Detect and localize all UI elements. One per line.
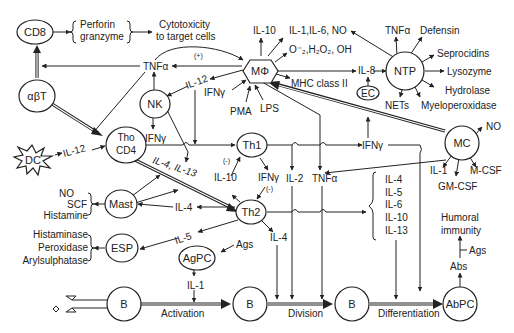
svg-text:NTP: NTP bbox=[394, 65, 416, 77]
svg-text:αβT: αβT bbox=[27, 90, 47, 102]
svg-text:IL-8: IL-8 bbox=[358, 65, 376, 76]
svg-text:SCF: SCF bbox=[67, 199, 87, 210]
node-ec: EC bbox=[357, 86, 379, 100]
svg-text:to target cells: to target cells bbox=[156, 31, 215, 42]
svg-text:CD8: CD8 bbox=[24, 26, 46, 38]
svg-text:TNFα: TNFα bbox=[312, 173, 337, 184]
svg-text:Lysozyme: Lysozyme bbox=[447, 66, 492, 77]
node-dc: DC bbox=[14, 145, 52, 175]
svg-text:B: B bbox=[120, 298, 127, 310]
svg-text:Th1: Th1 bbox=[243, 139, 262, 151]
svg-text:IL-5: IL-5 bbox=[173, 230, 193, 246]
svg-text:GM-CSF: GM-CSF bbox=[438, 181, 477, 192]
svg-text:IFNγ: IFNγ bbox=[204, 87, 225, 98]
svg-text:Seprocidins: Seprocidins bbox=[437, 48, 489, 59]
svg-text:ESP: ESP bbox=[111, 242, 133, 254]
node-cd8: CD8 bbox=[17, 20, 53, 44]
node-esp: ESP bbox=[106, 234, 138, 262]
svg-text:Defensin: Defensin bbox=[420, 25, 459, 36]
svg-text:B: B bbox=[348, 298, 355, 310]
svg-text:LPS: LPS bbox=[260, 103, 279, 114]
svg-text:Mast: Mast bbox=[109, 198, 133, 210]
svg-text:B: B bbox=[246, 298, 253, 310]
svg-text:EC: EC bbox=[361, 88, 375, 99]
svg-text:Humoral: Humoral bbox=[441, 212, 479, 223]
svg-text:IL-4: IL-4 bbox=[175, 202, 193, 213]
svg-text:AgPC: AgPC bbox=[183, 252, 212, 264]
node-ntp: NTP bbox=[386, 52, 424, 90]
svg-text:IL-6: IL-6 bbox=[385, 199, 403, 210]
svg-text:immunity: immunity bbox=[441, 225, 481, 236]
node-nk: NK bbox=[140, 90, 170, 118]
svg-text:Division: Division bbox=[288, 308, 323, 319]
svg-text:IL-4: IL-4 bbox=[385, 174, 403, 185]
svg-text:M-CSF: M-CSF bbox=[470, 165, 502, 176]
svg-text:CD4: CD4 bbox=[116, 145, 136, 156]
svg-text:NO: NO bbox=[486, 121, 501, 132]
node-mast: Mast bbox=[105, 190, 137, 218]
svg-text:Myeloperoxidase: Myeloperoxidase bbox=[421, 100, 497, 111]
svg-text:IL-10: IL-10 bbox=[214, 172, 237, 183]
svg-text:AbPC: AbPC bbox=[446, 298, 475, 310]
svg-text:IFNγ: IFNγ bbox=[362, 140, 383, 151]
node-macrophage: MΦ bbox=[243, 60, 278, 83]
node-mc: MC bbox=[445, 126, 479, 160]
antigen-diamond-icon bbox=[53, 306, 59, 312]
node-th1: Th1 bbox=[237, 133, 267, 157]
node-agpc: AgPC bbox=[179, 246, 215, 270]
svg-text:IL-4, IL-13: IL-4, IL-13 bbox=[151, 154, 198, 179]
svg-text:Arylsulphatase: Arylsulphatase bbox=[22, 255, 88, 266]
svg-text:DC: DC bbox=[25, 154, 41, 166]
svg-text:IFNγ: IFNγ bbox=[258, 172, 279, 183]
svg-text:IFNγ: IFNγ bbox=[145, 133, 166, 144]
bcr-receptor-icon bbox=[66, 296, 107, 312]
svg-text:Histamine: Histamine bbox=[44, 210, 89, 221]
svg-text:Cytotoxicity: Cytotoxicity bbox=[159, 19, 210, 30]
svg-text:Abs: Abs bbox=[450, 261, 467, 272]
node-abt: αβT bbox=[19, 80, 55, 112]
svg-text:(+): (+) bbox=[194, 52, 203, 60]
svg-text:(-): (-) bbox=[266, 185, 273, 193]
svg-text:Hydrolase: Hydrolase bbox=[445, 85, 490, 96]
svg-text:Ags: Ags bbox=[236, 239, 253, 250]
svg-text:TNFα: TNFα bbox=[143, 61, 168, 72]
svg-text:(-): (-) bbox=[223, 157, 230, 165]
svg-text:Ags: Ags bbox=[469, 245, 486, 256]
node-th2: Th2 bbox=[236, 200, 266, 224]
svg-text:IL-10: IL-10 bbox=[253, 25, 276, 36]
svg-text:MΦ: MΦ bbox=[251, 65, 269, 77]
svg-text:IL-2: IL-2 bbox=[286, 173, 304, 184]
svg-text:Histaminase: Histaminase bbox=[33, 229, 88, 240]
svg-text:MC: MC bbox=[453, 137, 470, 149]
svg-text:IL-4: IL-4 bbox=[270, 232, 288, 243]
svg-text:IL-10: IL-10 bbox=[385, 212, 408, 223]
svg-text:IL-5: IL-5 bbox=[385, 187, 403, 198]
svg-text:Peroxidase: Peroxidase bbox=[38, 242, 88, 253]
node-b-naive: B bbox=[107, 287, 141, 321]
svg-text:Th2: Th2 bbox=[242, 206, 261, 218]
svg-text:O⁻₂,H₂O₂, OH: O⁻₂,H₂O₂, OH bbox=[289, 44, 352, 55]
svg-text:TNFα: TNFα bbox=[385, 25, 410, 36]
svg-text:IL-1: IL-1 bbox=[430, 165, 448, 176]
svg-text:Tho: Tho bbox=[117, 132, 135, 143]
immune-network-diagram: CD8 αβT DC Tho CD4 NK MΦ NTP EC Th1 Th2 … bbox=[0, 0, 514, 333]
node-b-activated: B bbox=[233, 287, 267, 321]
svg-text:IL-1: IL-1 bbox=[187, 280, 205, 291]
svg-text:granzyme: granzyme bbox=[80, 31, 124, 42]
svg-text:PMA: PMA bbox=[230, 106, 252, 117]
node-abpc: AbPC bbox=[443, 287, 477, 321]
node-tho-cd4: Tho CD4 bbox=[106, 127, 146, 163]
svg-text:Perforin: Perforin bbox=[80, 19, 115, 30]
svg-text:NK: NK bbox=[147, 98, 163, 110]
svg-text:IL-1,IL-6, NO: IL-1,IL-6, NO bbox=[289, 25, 347, 36]
svg-text:Activation: Activation bbox=[161, 308, 204, 319]
svg-text:NETs: NETs bbox=[385, 100, 409, 111]
svg-text:IL-13: IL-13 bbox=[385, 225, 408, 236]
svg-text:Differentiation: Differentiation bbox=[378, 308, 440, 319]
svg-text:IL-12: IL-12 bbox=[62, 142, 87, 159]
svg-text:NO: NO bbox=[59, 188, 74, 199]
svg-text:MHC class II: MHC class II bbox=[291, 78, 348, 89]
node-b-dividing: B bbox=[335, 287, 369, 321]
